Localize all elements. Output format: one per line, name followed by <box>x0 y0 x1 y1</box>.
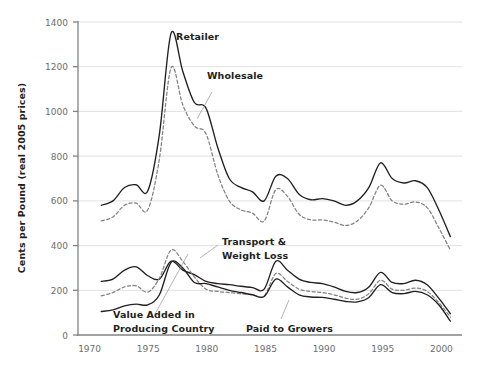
y-tick-label-1000: 1000 <box>45 107 68 117</box>
annotation-value-added-2: Producing Country <box>113 323 215 334</box>
series-layer <box>101 31 450 321</box>
leader-value-added <box>155 254 188 314</box>
coffee-price-chart: Cents per Pound (real 2005 prices) 1400 … <box>0 0 487 375</box>
y-tick-label-200: 200 <box>51 286 68 296</box>
series-line-retailer <box>101 31 450 236</box>
x-tick-label-1980: 1980 <box>195 344 218 354</box>
annotation-value-added-1: Value Added in <box>113 309 195 320</box>
chart-canvas: Cents per Pound (real 2005 prices) 1400 … <box>0 0 487 375</box>
annotation-leaders <box>155 92 289 319</box>
leader-paid-growers <box>281 300 289 319</box>
y-tick-marks <box>73 22 78 335</box>
annotation-transport-2: Weight Loss <box>222 250 288 261</box>
x-tick-label-1990: 1990 <box>313 344 336 354</box>
annotation-transport-1: Transport & <box>222 236 286 247</box>
y-tick-label-1400: 1400 <box>45 18 68 28</box>
annotation-retailer: Retailer <box>176 31 219 42</box>
y-tick-label-600: 600 <box>51 196 68 206</box>
x-tick-label-1970: 1970 <box>78 344 101 354</box>
y-tick-label-800: 800 <box>51 152 68 162</box>
x-tick-label-1995: 1995 <box>371 344 394 354</box>
y-tick-label-1200: 1200 <box>45 62 68 72</box>
annotation-wholesale: Wholesale <box>207 70 263 81</box>
y-tick-label-0: 0 <box>62 331 68 341</box>
y-axis-title: Cents per Pound (real 2005 prices) <box>16 83 27 273</box>
x-tick-label-2000: 2000 <box>430 344 453 354</box>
y-tick-label-400: 400 <box>51 241 68 251</box>
leader-transport <box>200 245 218 258</box>
series-line-wholesale <box>101 66 450 250</box>
x-tick-label-1985: 1985 <box>254 344 277 354</box>
x-tick-label-1975: 1975 <box>137 344 160 354</box>
annotation-paid-growers: Paid to Growers <box>246 323 333 334</box>
